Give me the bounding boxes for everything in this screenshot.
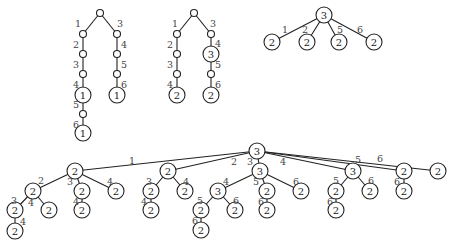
node-label: 1 <box>80 90 86 101</box>
node-label: 2 <box>198 205 204 216</box>
edge-label: 1 <box>129 155 135 166</box>
node-label: 2 <box>269 37 275 48</box>
node-label: 2 <box>435 166 441 177</box>
node-label: 2 <box>333 205 339 216</box>
edge-label: 6 <box>258 196 264 207</box>
empty-node <box>174 31 181 38</box>
node-label: 3 <box>215 186 221 197</box>
edge-label: 2 <box>302 24 308 35</box>
edge-label: 4 <box>141 196 147 207</box>
empty-node <box>114 51 121 58</box>
node-label: 2 <box>336 37 342 48</box>
edge-label: 6 <box>73 119 79 130</box>
empty-node <box>114 71 121 78</box>
edge-label: 2 <box>231 156 237 167</box>
node-label: 2 <box>79 186 85 197</box>
node-label: 2 <box>371 37 377 48</box>
edge-label: 3 <box>210 18 216 29</box>
edge-label: 4 <box>167 79 173 90</box>
empty-node <box>80 51 87 58</box>
node-label: 2 <box>12 226 18 237</box>
edge-label: 3 <box>11 195 17 206</box>
tree-edge <box>177 13 194 34</box>
node-label: 2 <box>264 186 270 197</box>
node-label: 2 <box>401 186 407 197</box>
edge-label: 2 <box>73 39 79 50</box>
edge-label: 2 <box>38 175 44 186</box>
edge-label: 5 <box>73 99 79 110</box>
edge-label: 6 <box>215 79 221 90</box>
node-label: 2 <box>401 166 407 177</box>
edge-label: 5 <box>215 59 221 70</box>
edge-label: 4 <box>215 38 221 49</box>
empty-node <box>174 71 181 78</box>
node-label: 2 <box>165 166 171 177</box>
empty-node <box>208 31 215 38</box>
edge-label: 3 <box>167 59 173 70</box>
edge-label: 5 <box>333 175 339 186</box>
edge-label: 4 <box>183 176 189 187</box>
edge-label: 6 <box>368 175 374 186</box>
edge-label: 6 <box>233 195 239 206</box>
edge-label: 4 <box>107 176 113 187</box>
node-label: 2 <box>232 205 238 216</box>
edge-label: 4 <box>223 176 229 187</box>
node-label: 1 <box>80 128 86 139</box>
empty-node <box>191 10 198 17</box>
tree-edge <box>168 151 257 171</box>
edge-label: 4 <box>20 216 26 227</box>
edge-label: 1 <box>75 18 81 29</box>
node-label: 3 <box>208 49 214 60</box>
tree-edge <box>83 13 100 34</box>
tree-edge <box>100 13 117 34</box>
node-label: 2 <box>333 186 339 197</box>
node-label: 1 <box>114 90 120 101</box>
edge-label: 6 <box>327 196 333 207</box>
empty-node <box>114 31 121 38</box>
node-label: 2 <box>367 186 373 197</box>
edge-label: 4 <box>280 156 286 167</box>
node-label: 2 <box>148 205 154 216</box>
tree-edge <box>272 15 324 42</box>
tree-diagram: 111232322223222222222222332222223222222 … <box>0 0 453 244</box>
edge-label: 3 <box>146 176 152 187</box>
empty-node <box>174 51 181 58</box>
node-label: 2 <box>264 205 270 216</box>
edge-label: 1 <box>282 24 288 35</box>
tree-edge <box>257 151 353 171</box>
edge-label: 2 <box>167 39 173 50</box>
edge-label: 3 <box>117 18 123 29</box>
edge-label: 6 <box>394 176 400 187</box>
node-label: 2 <box>79 205 85 216</box>
node-label: 2 <box>30 186 36 197</box>
edge-label: 4 <box>73 196 79 207</box>
node-label: 2 <box>208 90 214 101</box>
edge-label: 1 <box>172 18 178 29</box>
node-label: 2 <box>198 225 204 236</box>
edge-label: 5 <box>197 195 203 206</box>
empty-node <box>80 31 87 38</box>
edge-label: 6 <box>192 215 198 226</box>
node-label: 2 <box>304 37 310 48</box>
edge-label: 6 <box>377 153 383 164</box>
edge-label: 3 <box>67 176 73 187</box>
node-label: 2 <box>174 90 180 101</box>
node-label: 3 <box>254 146 260 157</box>
edge-label: 4 <box>73 79 79 90</box>
node-label: 3 <box>321 10 327 21</box>
node-label: 2 <box>113 186 119 197</box>
edge-label: 4 <box>121 39 127 50</box>
node-label: 2 <box>182 186 188 197</box>
edge-label: 6 <box>293 176 299 187</box>
tree-edge <box>194 13 211 34</box>
empty-node <box>80 71 87 78</box>
edge-label: 6 <box>121 79 127 90</box>
edge-label: 5 <box>253 176 259 187</box>
empty-node <box>80 111 87 118</box>
empty-node <box>97 10 104 17</box>
edge-label: 3 <box>247 156 253 167</box>
node-label: 2 <box>46 205 52 216</box>
node-label: 2 <box>12 205 18 216</box>
empty-node <box>208 71 215 78</box>
edge-label: 5 <box>337 24 343 35</box>
